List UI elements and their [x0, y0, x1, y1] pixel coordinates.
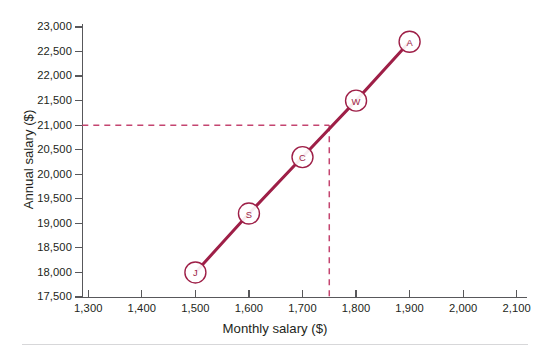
data-point-label: C — [299, 152, 306, 163]
figure-bottom-rule — [22, 344, 528, 345]
data-point-label: W — [352, 96, 361, 107]
chart-figure: 17,50018,00018,50019,00019,50020,00020,5… — [0, 0, 550, 354]
chart-data-layer: JSCWA — [0, 0, 550, 354]
data-point-label: A — [406, 37, 413, 48]
x-axis-title: Monthly salary ($) — [0, 321, 550, 336]
data-point-label: J — [193, 267, 198, 278]
data-point-label: S — [246, 209, 252, 220]
y-axis-title: Annual salary ($) — [21, 70, 36, 250]
plot-area: 17,50018,00018,50019,00019,50020,00020,5… — [0, 0, 550, 354]
